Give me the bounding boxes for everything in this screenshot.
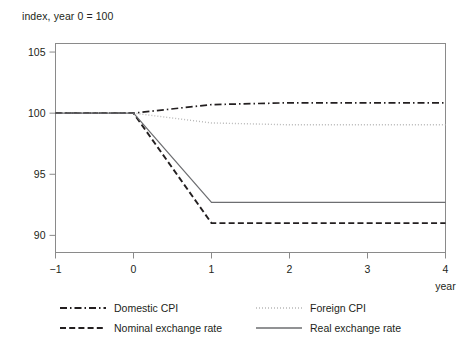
legend-label: Real exchange rate (310, 323, 401, 334)
data-series (56, 103, 446, 223)
y-tick-label: 105 (28, 46, 46, 58)
series-line-foreign-cpi (56, 113, 446, 125)
y-tick-label: 90 (34, 229, 46, 241)
series-line-nominal-exchange-rate (56, 113, 446, 223)
x-tick-label: −1 (50, 263, 62, 275)
series-line-real-exchange-rate (56, 113, 446, 202)
legend-swatch-dash-dot (60, 303, 106, 313)
y-tick-label: 95 (34, 168, 46, 180)
legend-swatch-solid (256, 323, 302, 333)
series-line-domestic-cpi (56, 103, 446, 113)
x-axis-title: year (435, 280, 456, 292)
x-tick-label: 2 (287, 263, 293, 275)
legend-item-foreign-cpi: Foreign CPI (256, 303, 452, 314)
line-chart-plot: 9095100105−101234year (0, 0, 472, 344)
plot-frame (56, 44, 446, 253)
legend-label: Nominal exchange rate (114, 323, 222, 334)
y-tick-label: 100 (28, 107, 46, 119)
legend-label: Domestic CPI (114, 303, 178, 314)
legend-label: Foreign CPI (310, 303, 366, 314)
x-tick-label: 0 (131, 263, 137, 275)
legend-swatch-dotted (256, 303, 302, 313)
legend-swatch-dashed (60, 323, 106, 333)
chart-legend: Domestic CPI Foreign CPI Nominal exchang… (60, 298, 460, 338)
chart-figure: index, year 0 = 100 9095100105−101234yea… (0, 0, 472, 344)
axis-tick-labels: 9095100105−101234year (28, 46, 456, 292)
x-tick-label: 3 (365, 263, 371, 275)
legend-item-real-exchange-rate: Real exchange rate (256, 323, 452, 334)
axis-ticks (50, 52, 446, 258)
legend-item-nominal-exchange-rate: Nominal exchange rate (60, 323, 256, 334)
legend-item-domestic-cpi: Domestic CPI (60, 303, 256, 314)
x-tick-label: 1 (209, 263, 215, 275)
x-tick-label: 4 (443, 263, 449, 275)
